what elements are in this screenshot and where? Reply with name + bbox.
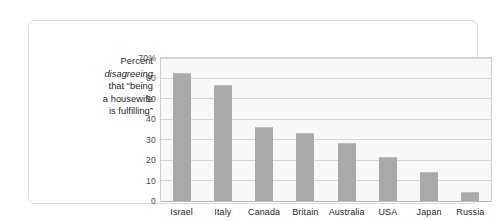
x-axis-tick-label: Australia: [329, 207, 365, 217]
y-axis-tick-label: 60: [146, 73, 156, 83]
plot-inner: 010203040506070%IsraelItalyCanadaBritain…: [161, 58, 491, 201]
bar-russia: [461, 192, 479, 201]
bar-canada: [255, 127, 273, 201]
y-axis-tick-label: 20: [146, 155, 156, 165]
x-axis-tick-label: Canada: [248, 207, 280, 217]
plot-area: 010203040506070%IsraelItalyCanadaBritain…: [160, 57, 492, 202]
y-axis-tick-label: 10: [146, 176, 156, 186]
x-axis-tick-label: USA: [378, 207, 397, 217]
y-axis-caption: Percent disagreeing that “being a housew…: [65, 55, 153, 118]
caption-line-4: a housewife: [65, 93, 153, 106]
gridline: [161, 180, 491, 181]
y-axis-tick-label: 0: [151, 196, 156, 206]
gridline: [161, 160, 491, 161]
x-axis-tick-label: Britain: [292, 207, 318, 217]
caption-line-3: that “being: [65, 80, 153, 93]
y-axis-tick-label: 40: [146, 114, 156, 124]
gridline: [161, 201, 491, 202]
x-axis-tick-label: Italy: [214, 207, 231, 217]
figure: Percent disagreeing that “being a housew…: [0, 0, 500, 221]
x-axis-tick-label: Russia: [456, 207, 484, 217]
caption-line-2-italic: disagreeing: [65, 68, 153, 81]
bar-japan: [420, 172, 438, 201]
gridline: [161, 139, 491, 140]
bar-israel: [173, 73, 191, 201]
gridline: [161, 58, 491, 59]
y-axis-tick-label: 50: [146, 94, 156, 104]
gridline: [161, 78, 491, 79]
gridline: [161, 119, 491, 120]
bar-usa: [379, 157, 397, 201]
caption-line-5: is fulfilling”: [65, 105, 153, 118]
bar-italy: [214, 85, 232, 201]
y-axis-tick-label: 70%: [138, 53, 156, 63]
bar-australia: [338, 143, 356, 201]
y-axis-tick-label: 30: [146, 135, 156, 145]
x-axis-tick-label: Japan: [417, 207, 442, 217]
chart-card: Percent disagreeing that “being a housew…: [28, 20, 478, 204]
bar-britain: [296, 133, 314, 201]
x-axis-tick-label: Israel: [170, 207, 193, 217]
gridline: [161, 98, 491, 99]
